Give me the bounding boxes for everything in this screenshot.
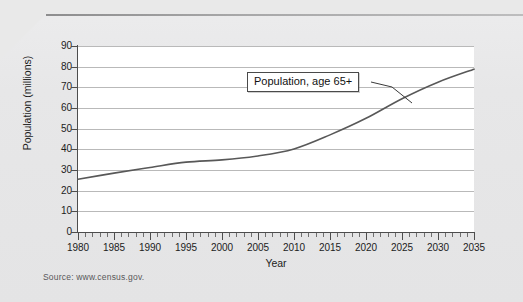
x-tick-minor	[452, 233, 453, 237]
y-tick-label: 60	[46, 103, 72, 113]
y-tick-mark	[71, 149, 77, 150]
x-tick-label: 2035	[454, 242, 494, 253]
y-tick-mark	[71, 46, 77, 47]
x-tick-minor	[143, 233, 144, 237]
x-tick-minor	[164, 233, 165, 237]
x-tick-minor	[265, 233, 266, 237]
y-tick-label: 20	[46, 186, 72, 196]
y-tick-mark	[71, 87, 77, 88]
x-tick-minor	[244, 233, 245, 237]
y-tick-label: 10	[46, 206, 72, 216]
y-tick-label: 50	[46, 124, 72, 134]
x-tick-label: 2025	[382, 242, 422, 253]
x-tick-minor	[215, 233, 216, 237]
x-tick-minor	[92, 233, 93, 237]
gridline	[78, 149, 474, 150]
x-tick-major	[294, 233, 295, 240]
annotation-label-population-65plus: Population, age 65+	[247, 72, 359, 92]
x-tick-minor	[431, 233, 432, 237]
scanned-page: 9080706050403020100 Population (millions…	[0, 0, 523, 302]
source-note: Source: www.census.gov.	[43, 272, 144, 282]
y-tick-mark	[71, 129, 77, 130]
x-tick-minor	[301, 233, 302, 237]
x-tick-label: 2020	[346, 242, 386, 253]
x-tick-minor	[157, 233, 158, 237]
gridline	[78, 191, 474, 192]
x-tick-minor	[229, 233, 230, 237]
x-tick-minor	[380, 233, 381, 237]
x-tick-major	[186, 233, 187, 240]
x-tick-minor	[373, 233, 374, 237]
x-axis-title: Year	[78, 257, 474, 269]
x-tick-major	[366, 233, 367, 240]
x-tick-minor	[424, 233, 425, 237]
x-tick-major	[402, 233, 403, 240]
x-tick-minor	[85, 233, 86, 237]
x-tick-label: 1985	[94, 242, 134, 253]
y-tick-label: 80	[46, 62, 72, 72]
y-axis-tick-labels: 9080706050403020100	[42, 0, 72, 302]
x-tick-minor	[100, 233, 101, 237]
x-tick-minor	[128, 233, 129, 237]
x-tick-minor	[272, 233, 273, 237]
x-tick-minor	[280, 233, 281, 237]
y-axis-line	[77, 45, 78, 233]
y-tick-mark	[71, 232, 77, 233]
x-tick-label: 2030	[418, 242, 458, 253]
x-tick-minor	[395, 233, 396, 237]
x-tick-label: 2015	[310, 242, 350, 253]
y-tick-label: 0	[46, 227, 72, 237]
x-tick-minor	[316, 233, 317, 237]
x-tick-minor	[193, 233, 194, 237]
x-tick-minor	[251, 233, 252, 237]
x-tick-minor	[352, 233, 353, 237]
x-tick-minor	[236, 233, 237, 237]
x-tick-minor	[179, 233, 180, 237]
x-tick-major	[330, 233, 331, 240]
x-tick-minor	[359, 233, 360, 237]
gridline	[78, 211, 474, 212]
x-tick-minor	[107, 233, 108, 237]
x-tick-minor	[308, 233, 309, 237]
x-tick-major	[222, 233, 223, 240]
x-tick-minor	[416, 233, 417, 237]
gridline	[78, 108, 474, 109]
x-tick-minor	[467, 233, 468, 237]
x-tick-minor	[208, 233, 209, 237]
x-tick-major	[258, 233, 259, 240]
y-tick-label: 40	[46, 144, 72, 154]
gridline	[78, 129, 474, 130]
y-tick-mark	[71, 170, 77, 171]
x-tick-minor	[460, 233, 461, 237]
x-tick-label: 1995	[166, 242, 206, 253]
gridline	[78, 67, 474, 68]
chart-figure: 9080706050403020100 Population (millions…	[0, 0, 523, 302]
y-axis-title: Population (millions)	[21, 38, 33, 168]
gridline	[78, 46, 474, 47]
x-tick-major	[114, 233, 115, 240]
x-tick-minor	[172, 233, 173, 237]
x-tick-major	[474, 233, 475, 240]
x-tick-minor	[136, 233, 137, 237]
y-tick-mark	[71, 67, 77, 68]
x-tick-minor	[445, 233, 446, 237]
y-tick-label: 70	[46, 82, 72, 92]
x-tick-label: 2010	[274, 242, 314, 253]
x-tick-label: 1980	[58, 242, 98, 253]
gridline	[78, 170, 474, 171]
x-tick-minor	[344, 233, 345, 237]
x-tick-major	[150, 233, 151, 240]
y-tick-mark	[71, 211, 77, 212]
x-tick-major	[438, 233, 439, 240]
x-tick-minor	[121, 233, 122, 237]
x-tick-major	[78, 233, 79, 240]
x-tick-minor	[323, 233, 324, 237]
x-tick-label: 1990	[130, 242, 170, 253]
y-tick-label: 30	[46, 165, 72, 175]
x-tick-minor	[388, 233, 389, 237]
y-tick-label: 90	[46, 41, 72, 51]
x-tick-label: 2000	[202, 242, 242, 253]
x-tick-label: 2005	[238, 242, 278, 253]
x-tick-minor	[287, 233, 288, 237]
y-tick-mark	[71, 191, 77, 192]
